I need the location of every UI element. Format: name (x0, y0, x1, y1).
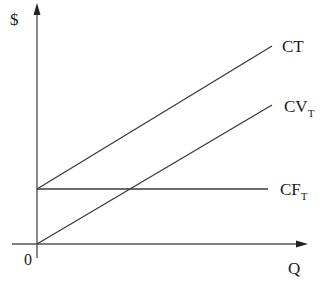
x-axis-label: Q (288, 259, 300, 278)
ct-label: CT (282, 37, 304, 56)
ct-line (37, 46, 272, 189)
cost-chart: $ 0 Q CT CVT CFT (0, 0, 329, 291)
origin-label: 0 (24, 251, 32, 268)
cv-total-label: CVT (284, 97, 315, 119)
cv-total-line (37, 105, 272, 244)
x-axis-arrow-icon (296, 241, 308, 248)
y-axis-label: $ (10, 10, 19, 29)
y-axis-arrow-icon (34, 3, 41, 15)
cf-total-label: CFT (280, 180, 308, 202)
